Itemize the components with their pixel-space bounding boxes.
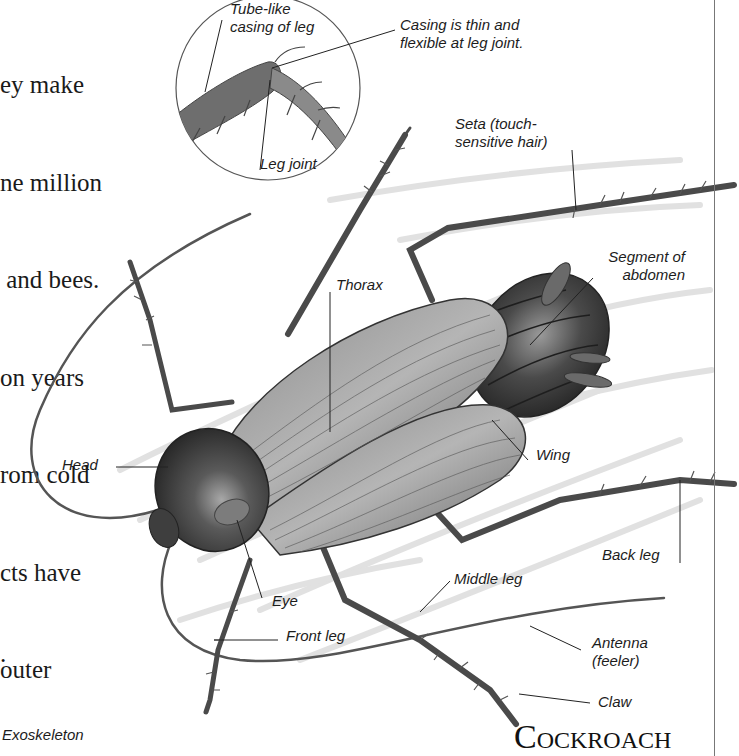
label-thorax: Thorax: [336, 276, 383, 294]
label-exoskeleton: Exoskeleton: [2, 726, 84, 744]
label-leg-joint: Leg joint: [260, 155, 317, 173]
label-tube-like-casing: Tube-like casing of leg: [230, 0, 314, 36]
label-seta: Seta (touch- sensitive hair): [455, 115, 548, 151]
label-head: Head: [62, 456, 98, 474]
page-title: Cockroach: [514, 718, 671, 756]
label-front-leg: Front leg: [286, 627, 345, 645]
label-middle-leg: Middle leg: [454, 570, 522, 588]
label-back-leg: Back leg: [602, 546, 660, 564]
label-segment-of-abdomen: Segment of abdomen: [585, 248, 685, 284]
label-antenna: Antenna (feeler): [592, 634, 648, 670]
column-rule: [714, 0, 715, 756]
label-wing: Wing: [536, 446, 570, 464]
label-casing-flexible: Casing is thin and flexible at leg joint…: [400, 16, 523, 52]
label-claw: Claw: [598, 693, 631, 711]
textbook-page: ey make ne million and bees. on years ro…: [0, 0, 739, 756]
label-eye: Eye: [272, 592, 298, 610]
